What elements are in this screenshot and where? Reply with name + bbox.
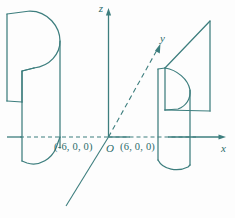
x-axis-label: x xyxy=(220,142,226,154)
coordinate-surfaces-diagram: z y x O (-6, 0, 0) (6, 0, 0) xyxy=(0,0,235,218)
y-axis xyxy=(66,44,161,207)
labels-group: z y x O (-6, 0, 0) (6, 0, 0) xyxy=(54,2,226,154)
left-inner-fold-edge xyxy=(22,68,34,102)
left-half-cylinder-surface xyxy=(7,11,60,164)
right-bottom-arc xyxy=(158,160,190,170)
z-axis-label: z xyxy=(98,2,104,14)
right-half-cylinder-surface xyxy=(158,21,210,170)
right-back-top-edge xyxy=(165,21,210,68)
right-fold-shoulder xyxy=(158,68,165,69)
right-point-label: (6, 0, 0) xyxy=(120,141,155,153)
x-axis-arrow-icon xyxy=(219,134,227,139)
right-top-arc xyxy=(165,68,190,110)
left-top-arc xyxy=(7,11,60,68)
x-axis xyxy=(7,134,226,139)
y-axis-line-back xyxy=(109,50,158,137)
right-back-bottom-chord xyxy=(165,110,210,111)
left-point-label: (-6, 0, 0) xyxy=(54,141,93,153)
z-axis-arrow-icon xyxy=(106,8,111,16)
y-axis-label: y xyxy=(159,32,165,44)
z-axis xyxy=(106,8,111,137)
figure-container: z y x O (-6, 0, 0) (6, 0, 0) xyxy=(0,0,235,218)
left-back-bottom-chord xyxy=(7,101,22,102)
origin-label: O xyxy=(106,142,114,154)
left-fold-shoulder xyxy=(22,68,34,71)
